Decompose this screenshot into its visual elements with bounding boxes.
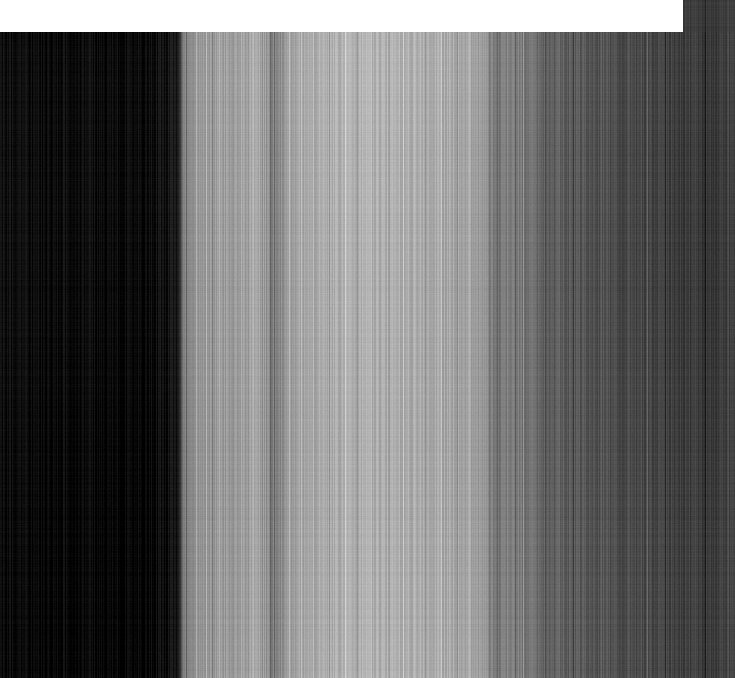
right-dark-column [683,0,735,32]
striped-texture-field [0,0,735,678]
white-plate-region [0,0,683,32]
image-viewport: Extreme close-up crop with vertical band… [0,0,735,678]
